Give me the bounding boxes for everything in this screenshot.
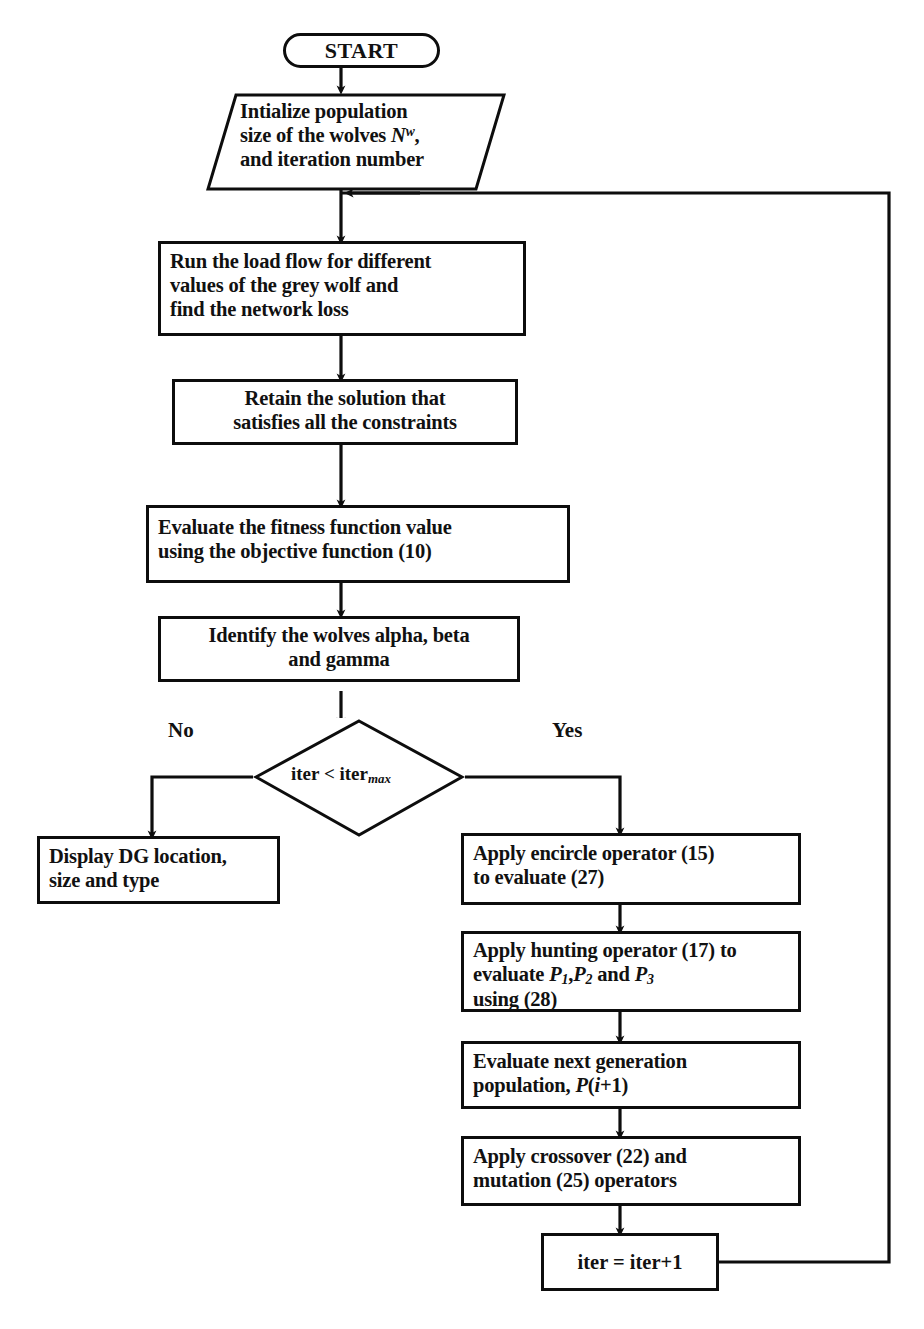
node-identify-wolves: Identify the wolves alpha, beta and gamm…: [158, 616, 520, 682]
node-encircle-operator: Apply encircle operator (15) to evaluate…: [461, 833, 801, 905]
initialize-line-2-a: size of the wolves: [240, 124, 391, 146]
crossover-line-1: Apply crossover (22) and: [473, 1145, 792, 1169]
next-gen-var-P: P: [575, 1074, 587, 1096]
identify-line-2: and gamma: [169, 648, 509, 672]
retain-line-1: Retain the solution that: [185, 387, 505, 411]
display-line-2: size and type: [49, 869, 271, 893]
increment-label: iter = iter+1: [578, 1251, 683, 1274]
initialize-line-3: and iteration number: [240, 148, 495, 172]
hunting-and: and: [592, 963, 634, 985]
encircle-line-1: Apply encircle operator (15): [473, 842, 792, 866]
initialize-line-1: Intialize population: [240, 100, 495, 124]
edge-label-no: No: [168, 718, 194, 743]
display-line-1: Display DG location,: [49, 845, 271, 869]
node-load-flow: Run the load flow for different values o…: [158, 241, 526, 336]
initialize-var-N: N: [391, 124, 406, 146]
fitness-line-2: using the objective function (10): [158, 540, 561, 564]
hunting-var-p3: P: [635, 963, 647, 985]
node-initialize: Intialize population size of the wolves …: [206, 93, 506, 191]
next-gen-line-2: population, P(i+1): [473, 1074, 792, 1098]
flowchart-canvas: START Intialize population size of the w…: [0, 0, 924, 1329]
node-start: START: [283, 33, 440, 68]
crossover-text: Apply crossover (22) and mutation (25) o…: [473, 1145, 792, 1193]
load-flow-text: Run the load flow for different values o…: [170, 250, 517, 321]
hunting-text: Apply hunting operator (17) to evaluate …: [473, 939, 792, 1012]
identify-line-1: Identify the wolves alpha, beta: [169, 624, 509, 648]
hunting-var-p1: P: [549, 963, 561, 985]
retain-line-2: satisfies all the constraints: [185, 411, 505, 435]
node-decision-iteration: iter < itermax: [253, 718, 465, 838]
hunting-var-p2: P: [573, 963, 585, 985]
next-gen-line-2-a: population,: [473, 1074, 575, 1096]
initialize-line-2-b: ,: [415, 124, 420, 146]
node-evaluate-fitness: Evaluate the fitness function value usin…: [146, 505, 570, 583]
initialize-line-2: size of the wolves Nw,: [240, 124, 495, 148]
initialize-sup-w: w: [406, 124, 415, 139]
hunting-line-1: Apply hunting operator (17) to: [473, 939, 792, 963]
load-flow-line-2: values of the grey wolf and: [170, 274, 517, 298]
node-crossover-mutation: Apply crossover (22) and mutation (25) o…: [461, 1136, 801, 1206]
load-flow-line-3: find the network loss: [170, 298, 517, 322]
node-iteration-increment: iter = iter+1: [541, 1233, 719, 1291]
decision-text-main: iter < iter: [291, 763, 368, 784]
display-text: Display DG location, size and type: [49, 845, 271, 893]
node-retain-solution: Retain the solution that satisfies all t…: [172, 379, 518, 445]
retain-text: Retain the solution that satisfies all t…: [185, 387, 505, 435]
crossover-line-2: mutation (25) operators: [473, 1169, 792, 1193]
start-label: START: [325, 38, 398, 64]
encircle-line-2: to evaluate (27): [473, 866, 792, 890]
decision-text-sub: max: [368, 771, 391, 786]
fitness-text: Evaluate the fitness function value usin…: [158, 516, 561, 564]
hunting-line-3: using (28): [473, 988, 792, 1012]
next-gen-line-1: Evaluate next generation: [473, 1050, 792, 1074]
hunting-line-2-a: evaluate: [473, 963, 549, 985]
node-next-generation: Evaluate next generation population, P(i…: [461, 1041, 801, 1109]
edge-label-yes: Yes: [552, 718, 582, 743]
next-gen-rest: +1): [600, 1074, 628, 1096]
node-display-dg: Display DG location, size and type: [37, 836, 280, 904]
hunting-line-2: evaluate P1,P2 and P3: [473, 963, 792, 988]
hunting-sub-3: 3: [647, 972, 654, 987]
decision-text: iter < itermax: [291, 763, 391, 787]
encircle-text: Apply encircle operator (15) to evaluate…: [473, 842, 792, 890]
fitness-line-1: Evaluate the fitness function value: [158, 516, 561, 540]
next-gen-text: Evaluate next generation population, P(i…: [473, 1050, 792, 1098]
load-flow-line-1: Run the load flow for different: [170, 250, 517, 274]
initialize-text: Intialize population size of the wolves …: [240, 100, 495, 172]
node-hunting-operator: Apply hunting operator (17) to evaluate …: [461, 931, 801, 1012]
identify-text: Identify the wolves alpha, beta and gamm…: [169, 624, 509, 672]
